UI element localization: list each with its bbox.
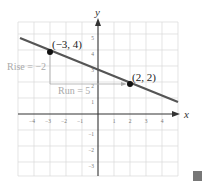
point-2-2-label: (2, 2) [132, 71, 156, 84]
point-neg3-4-label: (−3, 4) [52, 38, 82, 51]
svg-text:−1: −1 [77, 118, 83, 124]
run-label: Run = 5 [58, 85, 90, 96]
data-points: (−3, 4) (2, 2) [47, 38, 156, 87]
svg-text:4: 4 [161, 118, 164, 124]
rise-label: Rise = −2 [7, 61, 46, 72]
run-arrow-icon [121, 82, 127, 86]
x-axis-arrow-icon [172, 111, 180, 117]
x-axis-label: x [183, 108, 189, 120]
y-axis-label: y [94, 6, 100, 18]
coordinate-plane: x y −4 −3 −2 −1 1 2 3 4 5 4 3 2 1 −1 −2 … [0, 0, 202, 186]
svg-text:−2: −2 [88, 147, 94, 153]
svg-text:2: 2 [129, 118, 132, 124]
svg-text:−4: −4 [29, 118, 35, 124]
svg-text:−1: −1 [88, 131, 94, 137]
svg-text:1: 1 [113, 118, 116, 124]
svg-text:1: 1 [91, 99, 94, 105]
svg-text:5: 5 [91, 35, 94, 41]
y-tick-labels: 5 4 3 2 1 −1 −2 −3 [88, 35, 94, 169]
svg-text:4: 4 [91, 51, 94, 57]
x-tick-labels: −4 −3 −2 −1 1 2 3 4 [29, 118, 164, 124]
svg-text:3: 3 [145, 118, 148, 124]
svg-text:−2: −2 [61, 118, 67, 124]
corner-marker [193, 171, 202, 181]
svg-text:−3: −3 [88, 163, 94, 169]
axes: x y [18, 6, 189, 176]
svg-text:−3: −3 [45, 118, 51, 124]
